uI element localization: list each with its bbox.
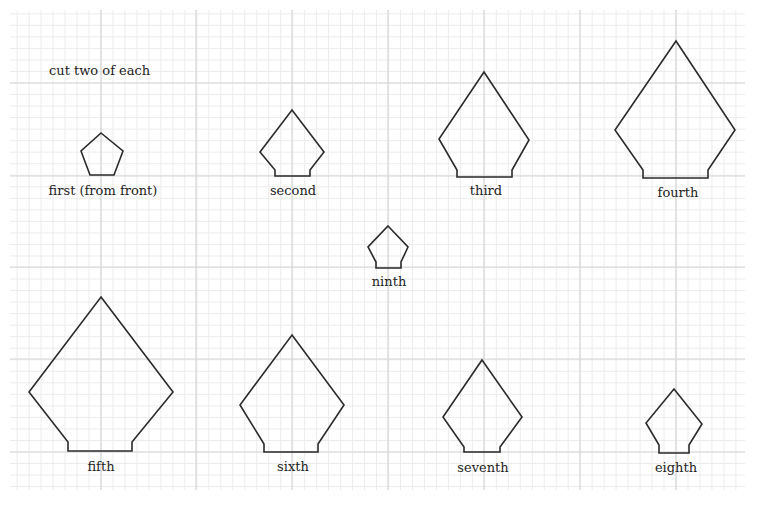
piece-label: seventh: [457, 460, 509, 475]
pentagon-shape: [81, 133, 123, 175]
instruction-note: cut two of each: [49, 63, 151, 78]
pentagon-shape: [646, 389, 702, 453]
pentagon-shape: [615, 41, 735, 178]
piece-label: second: [270, 183, 316, 198]
piece-label: eighth: [655, 460, 698, 475]
piece-label: first (from front): [49, 183, 158, 198]
piece-label: third: [470, 183, 502, 198]
major-grid: [10, 10, 745, 490]
piece-eighth: eighth: [646, 389, 702, 475]
piece-label: sixth: [277, 459, 309, 474]
minor-grid: [10, 10, 745, 490]
piece-label: fourth: [658, 185, 699, 200]
piece-label: fifth: [87, 459, 115, 474]
piece-label: ninth: [372, 274, 407, 289]
pattern-sheet: cut two of each first (from front)second…: [0, 0, 764, 506]
